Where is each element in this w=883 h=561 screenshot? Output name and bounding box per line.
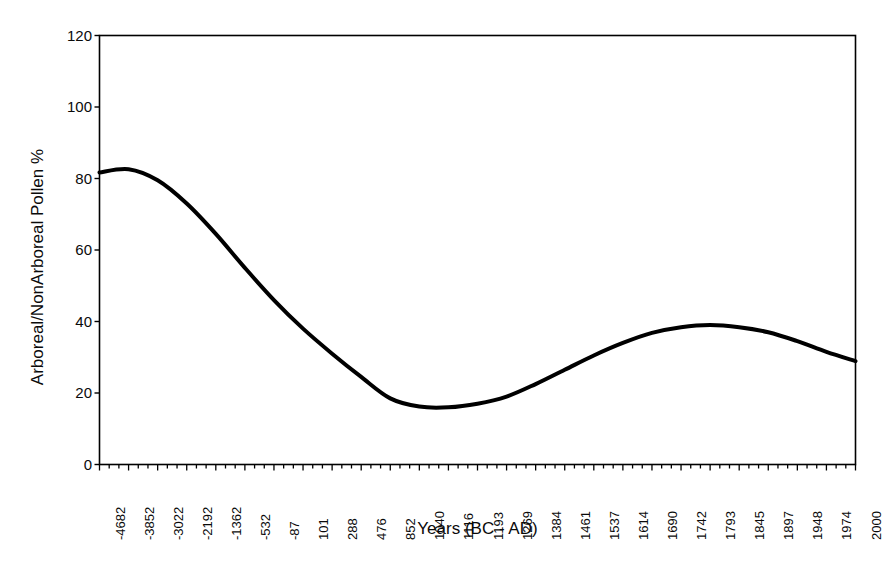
x-axis-tick-labels: -4682-3852-3022-2192-1362-532-8710128847… — [0, 0, 883, 561]
x-axis-title: Years (BC - AD) — [99, 519, 856, 539]
x-tick-label: 2000 — [870, 470, 883, 540]
pollen-percentage-line-chart: Arboreal/NonArboreal Pollen % 1201008060… — [0, 0, 883, 561]
